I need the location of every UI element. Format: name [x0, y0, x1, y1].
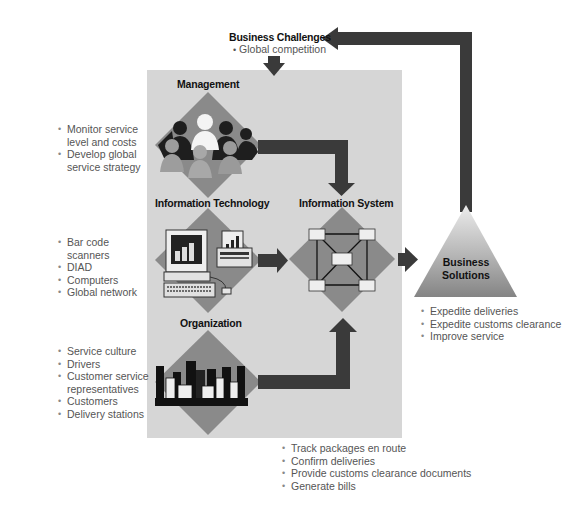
information-system-diamond	[289, 207, 395, 312]
list-item: Customers	[58, 395, 153, 408]
management-bullet-list: Monitor service level and costs Develop …	[58, 123, 148, 173]
it-diamond	[155, 208, 261, 313]
list-item: Expedite deliveries	[421, 305, 581, 318]
list-item: Expedite customs clearance	[421, 318, 581, 331]
list-item: Bar code scanners	[58, 236, 153, 261]
challenges-down-arrow	[263, 56, 285, 76]
list-item: Computers	[58, 274, 153, 287]
information-technology-title: Information Technology	[155, 197, 269, 209]
list-item: DIAD	[58, 261, 153, 274]
list-item: Improve service	[421, 330, 581, 343]
list-item: Delivery stations	[58, 408, 153, 421]
organization-diamond	[155, 330, 261, 435]
management-diamond	[155, 92, 261, 198]
business-challenges-item: • Global competition	[229, 43, 339, 56]
list-item: Confirm deliveries	[282, 455, 482, 468]
organization-title: Organization	[180, 317, 242, 329]
people-silhouettes-icon	[158, 114, 258, 178]
organization-bullet-list: Service culture Drivers Customer service…	[58, 345, 153, 421]
business-solutions-triangle	[414, 205, 517, 297]
organization-to-is-arrow	[258, 318, 357, 389]
list-item: Generate bills	[282, 480, 482, 493]
list-item: Service culture	[58, 345, 153, 358]
list-item: Drivers	[58, 358, 153, 371]
business-challenges-title: Business Challenges	[229, 31, 339, 43]
list-item: Monitor service level and costs	[58, 123, 148, 148]
business-solutions-bullet-list: Expedite deliveries Expedite customs cle…	[421, 305, 581, 343]
business-solutions-title: Business Solutions	[436, 256, 496, 282]
list-item: Customer service representatives	[58, 370, 153, 395]
list-item: Develop global service strategy	[58, 148, 148, 173]
information-system-bullet-list: Track packages en route Confirm deliveri…	[282, 442, 482, 492]
it-to-is-arrow	[258, 248, 288, 273]
list-item: Provide customs clearance documents	[282, 467, 482, 480]
information-system-title: Information System	[299, 197, 393, 209]
list-item: Global network	[58, 286, 153, 299]
business-challenges-block: Business Challenges • Global competition	[229, 31, 339, 56]
is-to-solutions-arrow	[398, 247, 418, 272]
management-to-is-arrow	[258, 140, 355, 196]
it-bullet-list: Bar code scanners DIAD Computers Global …	[58, 236, 153, 299]
management-title: Management	[177, 78, 239, 90]
list-item: Track packages en route	[282, 442, 482, 455]
